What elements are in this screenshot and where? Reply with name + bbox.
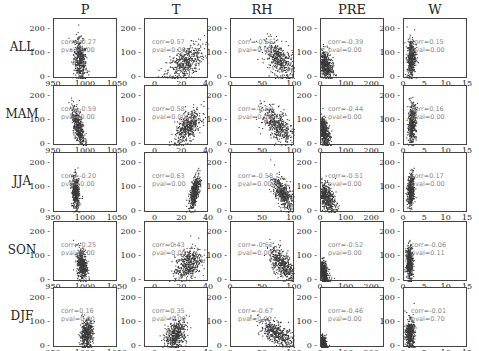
y-tick-label: 200 - [378,91,400,100]
corr-value: corr=0.43 [152,241,186,249]
y-tick-label: 100 - [205,317,227,326]
pval-value: pval=0.00 [152,249,186,257]
y-tick-label: 200 - [295,227,317,236]
y-tick-label: 200 - [119,293,141,302]
corr-value: corr=-0.67 [238,307,273,315]
corr-value: corr=-0.52 [328,241,363,249]
y-tick-label: 100 - [378,182,400,191]
y-tick-label: 200 - [295,91,317,100]
corr-value: corr=-0.44 [328,105,363,113]
y-tick-label: 200 - [205,158,227,167]
y-tick-label: 200 - [205,227,227,236]
correlation-annotation: corr=0.43pval=0.00 [152,241,186,257]
corr-value: corr=-0.51 [328,172,363,180]
pval-value: pval=0.00 [328,46,363,54]
y-tick-label: 100 - [205,48,227,57]
correlation-annotation: corr=0.15pval=0.00 [411,38,445,54]
y-tick-label: 200 - [28,24,50,33]
pval-value: pval=0.00 [152,113,186,121]
pval-value: pval=0.00 [61,46,96,54]
y-tick-label: 100 - [295,115,317,124]
corr-value: corr=-0.55 [238,38,273,46]
y-tick-label: 200 - [295,158,317,167]
correlation-annotation: corr=-0.67pval=0.00 [238,307,273,323]
y-tick-label: 100 - [295,317,317,326]
correlation-annotation: corr=-0.62pval=0.00 [238,241,273,257]
pval-value: pval=0.00 [238,46,273,54]
pval-value: pval=0.00 [152,315,186,323]
y-tick-label: 0 - [119,341,141,350]
y-tick-label: 100 - [378,251,400,260]
pval-value: pval=0.00 [61,315,95,323]
corr-value: corr=0.58 [152,105,186,113]
corr-value: corr=-0.60 [238,105,273,113]
y-tick-label: 100 - [205,182,227,191]
y-tick-label: 0 - [119,206,141,215]
corr-value: corr=0.16 [61,307,95,315]
pval-value: pval=0.70 [411,315,446,323]
pval-value: pval=0.00 [152,180,186,188]
y-tick-label: 200 - [205,24,227,33]
corr-value: corr=-0.58 [238,172,273,180]
corr-value: corr=0.15 [411,38,445,46]
y-tick-label: 100 - [28,182,50,191]
correlation-annotation: corr=-0.59pval=0.00 [61,105,96,121]
corr-value: corr=-0.25 [61,241,96,249]
pval-value: pval=0.00 [61,249,96,257]
y-tick-label: 200 - [378,158,400,167]
y-tick-label: 200 - [119,24,141,33]
corr-value: corr=-0.39 [328,38,363,46]
corr-value: corr=0.57 [152,38,186,46]
y-tick-label: 100 - [28,317,50,326]
y-tick-label: 200 - [295,24,317,33]
y-tick-label: 100 - [205,251,227,260]
y-tick-label: 200 - [28,227,50,236]
y-tick-label: 100 - [119,115,141,124]
correlation-annotation: corr=0.57pval=0.00 [152,38,186,54]
correlation-annotation: corr=0.35pval=0.00 [152,307,186,323]
pval-value: pval=0.11 [411,249,446,257]
corr-value: corr=0.17 [411,172,445,180]
y-tick-label: 100 - [119,182,141,191]
pval-value: pval=0.00 [238,249,273,257]
pval-value: pval=0.00 [411,46,445,54]
correlation-annotation: corr=0.17pval=0.00 [411,172,445,188]
corr-value: corr=-0.20 [61,172,96,180]
corr-value: corr=-0.01 [411,307,446,315]
correlation-annotation: corr=-0.20pval=0.00 [61,172,96,188]
pval-value: pval=0.00 [152,46,186,54]
y-tick-label: 0 - [119,139,141,148]
corr-value: corr=-0.62 [238,241,273,249]
pval-value: pval=0.00 [61,180,96,188]
y-tick-label: 100 - [295,251,317,260]
corr-value: corr=-0.46 [328,307,363,315]
correlation-annotation: corr=-0.52pval=0.00 [328,241,363,257]
y-tick-label: 200 - [28,91,50,100]
y-tick-label: 100 - [295,182,317,191]
y-tick-label: 100 - [378,48,400,57]
pval-value: pval=0.00 [411,113,445,121]
correlation-annotation: corr=-0.44pval=0.00 [328,105,363,121]
corr-value: corr=-0.27 [61,38,96,46]
y-tick-label: 200 - [28,158,50,167]
correlation-annotation: corr=0.16pval=0.00 [411,105,445,121]
correlation-annotation: corr=-0.06pval=0.11 [411,241,446,257]
column-title-w: W [403,2,467,17]
y-tick-label: 100 - [378,317,400,326]
y-tick-label: 200 - [295,293,317,302]
y-tick-label: 200 - [119,158,141,167]
pval-value: pval=0.00 [328,180,363,188]
y-tick-label: 200 - [119,227,141,236]
pval-value: pval=0.00 [328,249,363,257]
column-title-pre: PRE [320,2,384,17]
y-tick-label: 100 - [295,48,317,57]
column-title-rh: RH [230,2,294,17]
correlation-annotation: corr=0.16pval=0.00 [61,307,95,323]
y-tick-label: 0 - [119,275,141,284]
y-tick-label: 100 - [378,115,400,124]
correlation-annotation: corr=0.63pval=0.00 [152,172,186,188]
correlation-annotation: corr=-0.60pval=0.00 [238,105,273,121]
column-title-t: T [144,2,208,17]
y-tick-label: 100 - [28,48,50,57]
corr-value: corr=0.16 [411,105,445,113]
